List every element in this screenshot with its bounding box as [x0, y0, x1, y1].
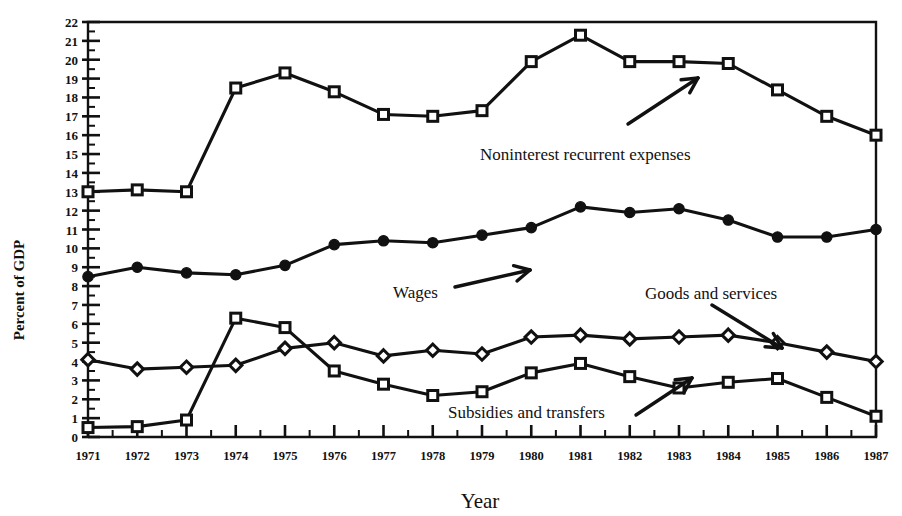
y-tick-label: 21 [65, 34, 78, 49]
data-point-marker [477, 230, 487, 240]
x-tick-label: 1987 [864, 449, 889, 463]
y-tick-label: 10 [65, 241, 78, 256]
y-tick-label: 3 [72, 373, 79, 388]
y-tick-label: 1 [72, 411, 79, 426]
data-point-marker [428, 391, 438, 401]
data-point-marker [280, 323, 290, 333]
data-point-marker [625, 372, 635, 382]
data-point-marker [83, 271, 93, 281]
y-tick-label: 11 [66, 223, 78, 238]
x-tick-label: 1975 [273, 449, 298, 463]
x-tick-label: 1974 [223, 449, 249, 463]
data-point-marker [182, 415, 192, 425]
series-annotation-label: Wages [393, 283, 438, 302]
data-point-marker [674, 204, 684, 214]
data-point-marker [83, 187, 93, 197]
data-point-marker [773, 374, 783, 384]
data-point-marker [132, 262, 142, 272]
data-point-marker [378, 236, 388, 246]
data-point-marker [477, 387, 487, 397]
data-point-marker [723, 215, 733, 225]
x-tick-label: 1972 [125, 449, 150, 463]
data-point-marker [132, 422, 142, 432]
data-point-marker [526, 368, 536, 378]
x-axis-tick-labels: 1971197219731974197519761977197819791980… [76, 449, 889, 463]
data-point-marker [625, 57, 635, 67]
data-point-marker [822, 232, 832, 242]
x-tick-label: 1984 [716, 449, 742, 463]
data-point-marker [625, 207, 635, 217]
data-point-marker [329, 239, 339, 249]
y-tick-label: 13 [65, 185, 79, 200]
x-tick-label: 1986 [814, 449, 839, 463]
data-point-marker [83, 423, 93, 433]
x-tick-label: 1980 [519, 449, 544, 463]
x-tick-label: 1976 [322, 449, 347, 463]
annotation-arrow-head [681, 78, 698, 80]
data-point-marker [329, 87, 339, 97]
data-point-marker [723, 377, 733, 387]
data-point-marker [181, 268, 191, 278]
chart-container: 012345678910111213141516171819202122 197… [0, 0, 902, 516]
x-tick-label: 1971 [76, 449, 101, 463]
y-tick-label: 2 [72, 392, 79, 407]
y-tick-label: 22 [65, 15, 78, 30]
x-tick-label: 1981 [568, 449, 593, 463]
data-point-marker [132, 185, 142, 195]
x-tick-label: 1982 [617, 449, 642, 463]
data-point-marker [723, 59, 733, 69]
y-tick-label: 6 [72, 317, 79, 332]
y-tick-label: 4 [72, 355, 79, 370]
data-point-marker [477, 106, 487, 116]
y-tick-label: 0 [72, 430, 79, 445]
data-point-marker [428, 111, 438, 121]
y-tick-label: 12 [65, 204, 78, 219]
y-tick-label: 7 [72, 298, 79, 313]
x-tick-label: 1979 [470, 449, 495, 463]
y-tick-label: 17 [65, 109, 79, 124]
data-point-marker [280, 260, 290, 270]
data-point-marker [428, 238, 438, 248]
data-point-marker [772, 232, 782, 242]
y-tick-label: 14 [65, 166, 79, 181]
x-tick-label: 1977 [371, 449, 396, 463]
y-tick-label: 5 [72, 336, 79, 351]
chart-background [0, 0, 902, 516]
data-point-marker [871, 411, 881, 421]
data-point-marker [773, 85, 783, 95]
data-point-marker [231, 270, 241, 280]
series-annotation-label: Noninterest recurrent expenses [480, 145, 691, 164]
x-tick-label: 1983 [667, 449, 692, 463]
data-point-marker [182, 187, 192, 197]
data-point-marker [871, 130, 881, 140]
data-point-marker [871, 224, 881, 234]
y-axis-label: Percent of GDP [11, 240, 27, 341]
series-annotation-label: Goods and services [645, 284, 777, 303]
data-point-marker [526, 57, 536, 67]
data-point-marker [329, 366, 339, 376]
data-point-marker [379, 109, 389, 119]
x-tick-label: 1985 [765, 449, 790, 463]
line-chart: 012345678910111213141516171819202122 197… [0, 0, 902, 516]
y-tick-label: 9 [72, 260, 79, 275]
data-point-marker [822, 392, 832, 402]
y-tick-label: 19 [65, 72, 79, 87]
data-point-marker [822, 111, 832, 121]
x-tick-label: 1973 [174, 449, 199, 463]
x-axis-label: Year [461, 489, 500, 513]
data-point-marker [674, 57, 684, 67]
data-point-marker [231, 83, 241, 93]
annotation-arrow-head [675, 378, 692, 380]
data-point-marker [575, 202, 585, 212]
y-tick-label: 20 [65, 53, 78, 68]
data-point-marker [379, 379, 389, 389]
y-tick-label: 15 [65, 147, 79, 162]
series-annotation-label: Subsidies and transfers [448, 403, 605, 422]
data-point-marker [576, 358, 586, 368]
y-tick-label: 18 [65, 90, 79, 105]
x-tick-label: 1978 [420, 449, 445, 463]
data-point-marker [576, 30, 586, 40]
data-point-marker [526, 222, 536, 232]
y-tick-label: 16 [65, 128, 79, 143]
data-point-marker [280, 68, 290, 78]
